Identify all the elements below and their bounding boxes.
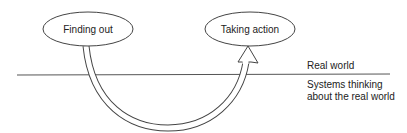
curved-arrow: [86, 46, 258, 128]
label-real-world: Real world: [307, 60, 354, 71]
node-label-taking-action: Taking action: [221, 24, 279, 35]
label-systems-thinking-line1: Systems thinking: [307, 79, 383, 90]
node-finding-out: Finding out: [43, 12, 133, 46]
label-systems-thinking-line2: about the real world: [307, 91, 395, 102]
diagram-canvas: Finding out Taking action Real world Sys…: [0, 0, 407, 133]
node-taking-action: Taking action: [205, 12, 295, 46]
divider-line: [17, 74, 390, 75]
node-label-finding-out: Finding out: [63, 24, 113, 35]
